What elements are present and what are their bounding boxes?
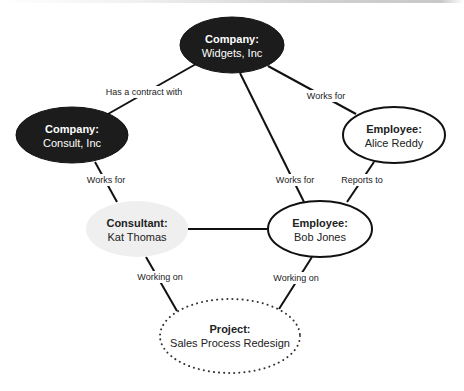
node-consult-name: Consult, Inc <box>43 137 102 149</box>
edge-label-bob-alice: Reports to <box>341 175 383 185</box>
node-project-title: Project: <box>210 323 251 335</box>
edge-label-alice-widgets: Works for <box>307 91 345 101</box>
node-project[interactable]: Project: Sales Process Redesign <box>160 299 300 373</box>
edge-label-bob-project: Working on <box>273 273 318 283</box>
node-bob-shape <box>268 201 372 257</box>
node-project-shape <box>160 299 300 373</box>
node-widgets-title: Company: <box>205 33 259 45</box>
node-consult[interactable]: Company: Consult, Inc <box>16 107 128 163</box>
edge-label-kat-project: Working on <box>137 272 182 282</box>
node-alice[interactable]: Employee: Alice Reddy <box>343 107 445 163</box>
node-consult-title: Company: <box>45 123 99 135</box>
edge-label-consult-widgets: Has a contract with <box>106 87 183 97</box>
node-alice-title: Employee: <box>366 123 422 135</box>
node-alice-shape <box>343 107 445 163</box>
node-project-name: Sales Process Redesign <box>170 337 290 349</box>
relationship-diagram: Has a contract with Works for Works for … <box>0 0 464 391</box>
node-bob-title: Employee: <box>292 217 348 229</box>
node-alice-name: Alice Reddy <box>365 137 424 149</box>
node-widgets-shape <box>180 17 284 73</box>
edge-label-kat-consult: Works for <box>87 175 125 185</box>
node-kat-shape <box>86 201 188 257</box>
node-kat-name: Kat Thomas <box>107 231 167 243</box>
node-widgets[interactable]: Company: Widgets, Inc <box>180 17 284 73</box>
node-bob[interactable]: Employee: Bob Jones <box>268 201 372 257</box>
node-widgets-name: Widgets, Inc <box>202 47 263 59</box>
edge-kat-project <box>146 257 177 311</box>
node-consult-shape <box>16 107 128 163</box>
edge-label-bob-widgets: Works for <box>276 175 314 185</box>
node-kat-title: Consultant: <box>106 217 167 229</box>
node-bob-name: Bob Jones <box>294 231 346 243</box>
node-kat[interactable]: Consultant: Kat Thomas <box>86 201 188 257</box>
